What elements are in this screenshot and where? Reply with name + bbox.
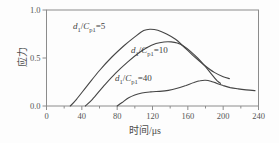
svg-text:0.5: 0.5 <box>30 53 41 63</box>
svg-text:240: 240 <box>252 111 265 121</box>
stress-time-chart: 040801201602002400.00.51.0 应力 时间/μs d1/C… <box>0 0 279 143</box>
svg-text:80: 80 <box>113 111 122 121</box>
svg-text:200: 200 <box>217 111 230 121</box>
curve-label-d1cp1-40: d1/Cp1=40 <box>115 73 152 85</box>
svg-text:120: 120 <box>146 111 159 121</box>
svg-text:0.0: 0.0 <box>30 101 41 111</box>
svg-text:1.0: 1.0 <box>30 5 41 15</box>
svg-text:40: 40 <box>78 111 87 121</box>
curve-label-d1cp1-5: d1/Cp1=5 <box>73 21 105 33</box>
svg-text:0: 0 <box>44 111 48 121</box>
y-axis-title: 应力 <box>14 47 29 67</box>
curve-label-d1cp1-10: d1/Cp1=10 <box>131 45 168 57</box>
x-axis-title: 时间/μs <box>129 122 161 137</box>
svg-text:160: 160 <box>181 111 194 121</box>
